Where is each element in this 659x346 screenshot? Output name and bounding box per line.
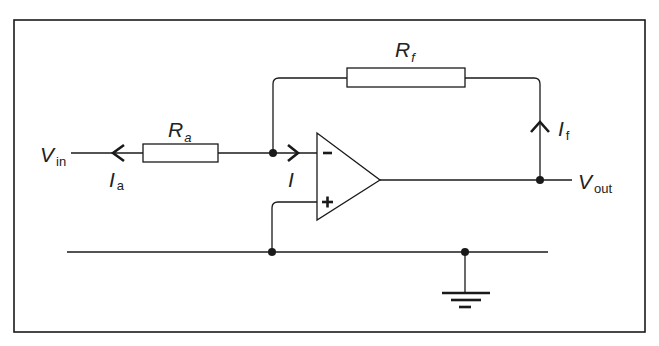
label-ra: Ra — [168, 118, 191, 145]
resistor-ra — [143, 144, 218, 162]
label-rf: Rf — [395, 38, 416, 65]
label-if: If — [558, 117, 570, 143]
non-inverting-wire — [272, 202, 317, 252]
label-vout: Vout — [578, 170, 612, 196]
label-ia: Ia — [109, 168, 125, 193]
resistor-rf — [347, 68, 465, 87]
label-vin: Vin — [40, 143, 66, 169]
circuit-diagram: Vin Ra Rf Ia I If Vout — [0, 0, 659, 346]
junction-node-output — [536, 176, 544, 184]
label-i: I — [288, 168, 294, 191]
feedback-wire — [273, 78, 540, 180]
ground-icon — [442, 252, 490, 307]
junction-node-ground-left — [268, 248, 276, 256]
